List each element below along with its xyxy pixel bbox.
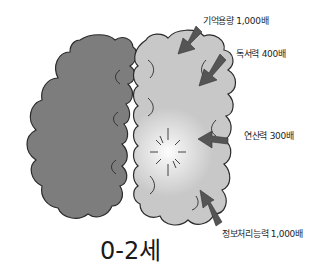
left-hemisphere — [27, 35, 137, 219]
label-calculation: 연산력 300배 — [244, 129, 294, 142]
label-info-processing: 정보처리능력 1,000배 — [222, 227, 303, 240]
label-reading: 독서력 400배 — [236, 47, 286, 60]
label-memory: 기억용량 1,000배 — [203, 14, 268, 27]
age-title: 0-2세 — [100, 231, 161, 266]
